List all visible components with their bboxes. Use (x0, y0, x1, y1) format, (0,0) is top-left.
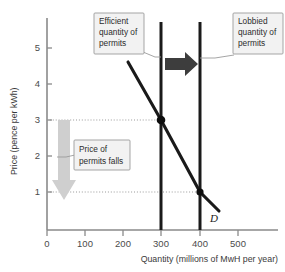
x-tick-label-0: 0 (44, 238, 49, 249)
lobbied-quantity-callout: Lobbied quantity of permits (200, 13, 283, 58)
y-axis-ticks: 5 4 3 2 1 (35, 42, 52, 197)
quantity-shift-arrow-shape (165, 52, 198, 76)
y-tick-label-4: 4 (35, 78, 40, 89)
lobbied-callout-leader (200, 55, 234, 58)
x-axis-title: Quantity (millions of MwH per year) (141, 254, 278, 264)
x-tick-label-300: 300 (153, 238, 169, 249)
efficient-callout-leader (143, 52, 161, 57)
price-falls-callout-line2: permits falls (79, 156, 123, 166)
lobbied-callout-line1: Lobbied (238, 16, 268, 26)
lobbied-callout-line2: quantity of (238, 27, 277, 37)
lobbied-callout-line3: permits (238, 38, 265, 48)
demand-curve-label: D (209, 212, 218, 224)
price-falls-callout-line1: Price of (79, 144, 108, 154)
price-fall-arrow (52, 120, 76, 200)
lobbied-equilibrium-marker (196, 188, 203, 195)
x-axis-ticks: 0 100 200 300 400 500 (44, 230, 246, 249)
x-tick-label-500: 500 (230, 238, 246, 249)
y-tick-label-3: 3 (35, 114, 40, 125)
efficient-quantity-callout: Efficient quantity of permits (94, 13, 161, 57)
x-tick-label-100: 100 (77, 238, 93, 249)
efficient-callout-line3: permits (99, 38, 126, 48)
y-axis-title: Price (pence per kWh) (9, 87, 19, 175)
efficient-callout-line1: Efficient (99, 16, 129, 26)
y-tick-label-1: 1 (35, 186, 40, 197)
y-tick-label-2: 2 (35, 150, 40, 161)
demand-curve (128, 62, 219, 211)
y-tick-label-5: 5 (35, 42, 40, 53)
efficient-callout-line2: quantity of (99, 27, 138, 37)
price-fall-arrow-shape (52, 120, 76, 200)
x-tick-label-200: 200 (115, 238, 131, 249)
supply-demand-chart: 5 4 3 2 1 0 100 200 300 400 500 Price (p… (0, 0, 285, 272)
efficient-equilibrium-marker (157, 116, 166, 125)
quantity-shift-arrow (165, 52, 198, 76)
x-tick-label-400: 400 (192, 238, 208, 249)
